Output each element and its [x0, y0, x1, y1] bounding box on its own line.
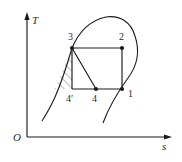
hatched-region-group — [54, 48, 72, 89]
state-label-2: 2 — [119, 31, 124, 42]
state-point-labels: 12344′ — [66, 31, 133, 104]
state-point-2 — [120, 46, 124, 50]
ts-diagram-canvas: 12344′ T s O — [0, 0, 182, 162]
ts-diagram-figure: 12344′ T s O — [0, 0, 182, 162]
hatched-area-fill — [54, 48, 72, 89]
state-label-1: 1 — [128, 88, 133, 99]
state-label-4prime: 4′ — [66, 93, 73, 104]
state-point-3 — [70, 46, 74, 50]
axes-group — [24, 12, 172, 140]
state-point-markers — [70, 46, 124, 91]
state-label-4: 4 — [92, 93, 97, 104]
y-axis-label: T — [32, 14, 39, 26]
cycle-process-lines — [72, 48, 122, 89]
state-point-1 — [120, 87, 124, 91]
state-point-4 — [94, 87, 98, 91]
state-label-3: 3 — [68, 31, 73, 42]
y-axis-arrowhead — [24, 12, 29, 20]
x-axis-arrowhead — [164, 134, 172, 139]
x-axis-label: s — [162, 140, 166, 152]
origin-label: O — [13, 131, 21, 143]
line-3-to-4 — [72, 48, 96, 89]
